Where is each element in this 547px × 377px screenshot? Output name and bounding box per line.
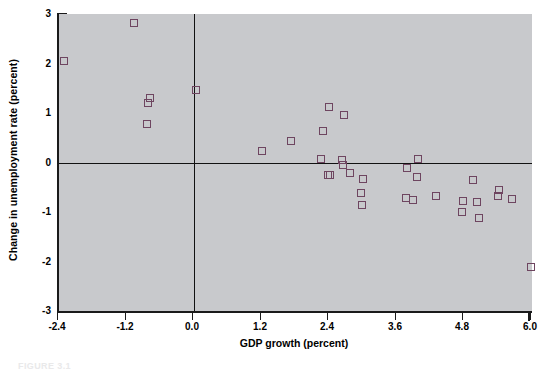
x-axis-tick <box>530 313 531 320</box>
x-axis-label: GDP growth (percent) <box>57 337 531 349</box>
y-axis-tick-label: 0 <box>29 158 51 168</box>
data-point <box>258 147 266 155</box>
data-point <box>319 127 327 135</box>
x-axis-tick <box>125 313 126 320</box>
data-point <box>346 169 354 177</box>
data-point <box>340 111 348 119</box>
scatter-chart-figure: Change in unemployment rate (percent) 32… <box>0 0 547 377</box>
x-axis-tick <box>327 313 328 320</box>
data-point <box>357 189 365 197</box>
x-axis-tick-label: -2.4 <box>35 322 79 332</box>
data-point <box>432 192 440 200</box>
x-axis-tick <box>462 313 463 320</box>
x-axis-tick <box>57 313 58 320</box>
data-point <box>317 155 325 163</box>
data-point <box>458 208 466 216</box>
data-point <box>358 201 366 209</box>
x-axis-tick-label: 1.2 <box>238 322 282 332</box>
data-point <box>359 175 367 183</box>
data-point <box>469 176 477 184</box>
x-axis-tick-label: 0.0 <box>170 322 214 332</box>
data-point <box>475 214 483 222</box>
data-point <box>326 171 334 179</box>
data-point <box>192 86 200 94</box>
y-axis-tick-label: -1 <box>29 207 51 217</box>
y-axis-label: Change in unemployment rate (percent) <box>2 0 24 320</box>
figure-caption: FIGURE 3.1 <box>18 361 71 371</box>
data-point <box>527 263 535 271</box>
x-axis-tick-label: 6.0 <box>508 322 547 332</box>
data-point <box>60 57 68 65</box>
data-point <box>325 103 333 111</box>
data-point <box>414 155 422 163</box>
y-axis-tick-label: 3 <box>29 9 51 19</box>
y-axis-tick-label: 1 <box>29 108 51 118</box>
plot-area <box>57 14 532 313</box>
zero-horizontal-reference-line <box>59 163 532 164</box>
x-axis-tick-label: 4.8 <box>440 322 484 332</box>
y-axis-tick-label: -2 <box>29 257 51 267</box>
data-point <box>287 137 295 145</box>
data-point <box>144 99 152 107</box>
data-point <box>459 197 467 205</box>
x-axis-tick-label: 3.6 <box>373 322 417 332</box>
data-point <box>409 196 417 204</box>
data-point <box>473 198 481 206</box>
data-point <box>494 192 502 200</box>
data-point <box>413 173 421 181</box>
y-axis-label-text: Change in unemployment rate (percent) <box>7 59 19 261</box>
x-axis-tick <box>192 313 193 320</box>
y-axis-tick-label: -3 <box>29 306 51 316</box>
x-axis-tick-label: 2.4 <box>305 322 349 332</box>
x-axis-tick-label: -1.2 <box>103 322 147 332</box>
zero-vertical-reference-line <box>194 14 195 311</box>
x-axis-tick <box>260 313 261 320</box>
data-point <box>130 19 138 27</box>
y-axis-tick-label: 2 <box>29 59 51 69</box>
data-point <box>508 195 516 203</box>
x-axis-tick <box>395 313 396 320</box>
data-point <box>403 164 411 172</box>
data-point <box>143 120 151 128</box>
